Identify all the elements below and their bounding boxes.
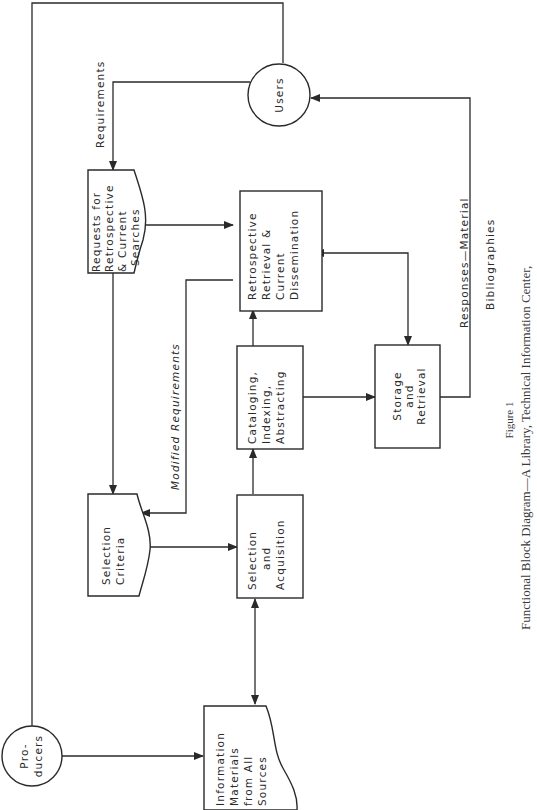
selection-criteria-label-1: Selection bbox=[100, 526, 112, 585]
cataloging-label-2: Indexing, bbox=[260, 385, 272, 444]
information-materials-label-2: Materials bbox=[228, 747, 240, 806]
producers-label-2: ducers bbox=[32, 735, 44, 778]
selection-acquisition-label-3: Acquisition bbox=[274, 519, 286, 590]
producers-label-1: Pro- bbox=[18, 743, 30, 768]
figure-number: Figure 1 bbox=[503, 402, 515, 439]
selection-acquisition-node: Selection and Acquisition bbox=[237, 495, 303, 598]
storage-node: Storage and Retrieval bbox=[375, 345, 440, 448]
information-materials-label-1: Information bbox=[214, 732, 226, 806]
requirements-edge-label: Requirements bbox=[94, 61, 106, 148]
users-node: Users bbox=[248, 64, 310, 126]
cataloging-label-1: Cataloging, bbox=[246, 371, 258, 444]
requirements-line bbox=[113, 82, 250, 170]
users-label: Users bbox=[273, 77, 285, 112]
responses-material-edge-label: Responses—Material bbox=[458, 197, 470, 328]
requests-label-4: Searches bbox=[129, 208, 141, 266]
modified-requirements-line bbox=[141, 280, 233, 513]
selection-criteria-label-2: Criteria bbox=[114, 537, 126, 585]
selection-acquisition-label-1: Selection bbox=[246, 531, 258, 590]
bibliographies-edge-label: Bibliographies bbox=[484, 219, 496, 310]
requests-label-2: Retrospective bbox=[103, 184, 115, 272]
selection-criteria-node: Selection Criteria bbox=[88, 494, 150, 596]
functional-block-diagram: Users Pro- ducers Requests for Retrospec… bbox=[0, 0, 537, 810]
requests-node: Requests for Retrospective & Current Sea… bbox=[88, 170, 146, 273]
information-materials-label-4: Sources bbox=[256, 756, 268, 806]
retrospective-node: Retrospective Retrieval & Current Dissem… bbox=[240, 191, 322, 311]
retrospective-label-1: Retrospective bbox=[246, 212, 258, 300]
figure-caption: Functional Block Diagram—A Library, Tech… bbox=[518, 266, 533, 630]
storage-label-2: and bbox=[403, 384, 415, 407]
modified-requirements-edge-label: Modified Requirements bbox=[169, 343, 181, 490]
requests-label-1: Requests for bbox=[90, 192, 102, 272]
storage-label-1: Storage bbox=[391, 371, 403, 420]
information-materials-label-3: from All bbox=[242, 756, 254, 806]
retrospective-label-4: Dissemination bbox=[288, 210, 300, 300]
retrospective-label-2: Retrieval & bbox=[260, 229, 272, 300]
producers-node: Pro- ducers bbox=[2, 726, 62, 786]
retrospective-label-3: Current bbox=[274, 252, 286, 300]
requests-label-3: & Current bbox=[116, 210, 128, 272]
selection-acquisition-label-2: and bbox=[260, 547, 272, 570]
storage-label-3: Retrieval bbox=[415, 367, 427, 424]
retrospective-storage-bidirectional-line bbox=[315, 253, 408, 345]
cataloging-label-3: Abstracting bbox=[274, 370, 286, 444]
cataloging-node: Cataloging, Indexing, Abstracting bbox=[237, 346, 303, 449]
information-materials-node: Information Materials from All Sources bbox=[204, 706, 297, 810]
